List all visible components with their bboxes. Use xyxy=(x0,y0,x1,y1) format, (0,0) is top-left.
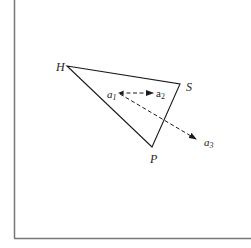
label-vertex-p: P xyxy=(149,152,158,166)
diagram-canvas: H S P a1 a2 a3 xyxy=(0,0,251,248)
label-a1-sub: 1 xyxy=(113,93,117,102)
label-a1: a1 xyxy=(107,88,117,102)
label-a3: a3 xyxy=(204,136,214,150)
triangle-hsp xyxy=(67,66,180,147)
label-vertex-h: H xyxy=(55,60,66,74)
label-vertex-s: S xyxy=(186,80,192,94)
label-a2-sub: 2 xyxy=(161,92,165,101)
label-a3-sub: 3 xyxy=(209,141,214,150)
label-a2: a2 xyxy=(156,87,165,101)
